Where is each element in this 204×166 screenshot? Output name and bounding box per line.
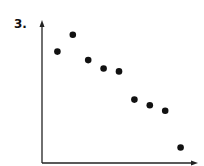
data-point bbox=[162, 108, 169, 115]
data-point bbox=[85, 57, 92, 64]
data-point bbox=[100, 65, 107, 72]
data-points bbox=[54, 31, 184, 150]
data-point bbox=[70, 31, 77, 38]
scatter-plot bbox=[0, 0, 204, 166]
data-point bbox=[116, 68, 123, 75]
axes bbox=[40, 20, 199, 166]
data-point bbox=[147, 102, 154, 109]
data-point bbox=[54, 48, 61, 55]
data-point bbox=[131, 96, 138, 103]
x-axis-arrow-icon bbox=[191, 161, 198, 166]
data-point bbox=[177, 144, 184, 151]
y-axis-arrow-icon bbox=[40, 20, 45, 27]
